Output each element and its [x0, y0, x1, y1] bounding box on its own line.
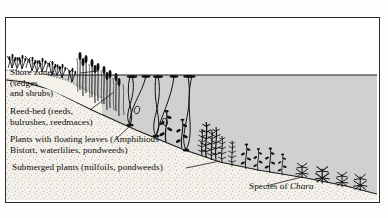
chara-label: Species of Chara	[249, 181, 314, 192]
chara-genus-name: Chara	[290, 181, 314, 191]
diagram-frame: Shore zones (sedges and shrubs) Reed-bed…	[5, 17, 380, 203]
floating-label-line1: Plants with floating leaves (Amphibious	[10, 134, 159, 144]
floating-label-line2: Bistort, waterlilies, pondweeds)	[10, 145, 128, 155]
reed-label-line2: bulrushes, reedmaces)	[10, 117, 93, 127]
chara-label-prefix: Species of	[249, 181, 290, 191]
floating-leaf-label: Plants with floating leaves (Amphibious …	[10, 134, 159, 155]
shore-label-line2: (sedges	[10, 78, 38, 88]
shore-label-line3: and shrubs)	[10, 88, 53, 98]
reed-bed-label: Reed-bed (reeds, bulrushes, reedmaces)	[10, 106, 93, 127]
reed-label-line1: Reed-bed (reeds,	[10, 106, 73, 116]
shore-label-line1: Shore zones	[10, 67, 55, 77]
figure-root: Shore zones (sedges and shrubs) Reed-bed…	[0, 0, 388, 218]
shore-zone-label: Shore zones (sedges and shrubs)	[10, 67, 55, 99]
submerged-label-line1: Submerged plants (milfoils, pondweeds)	[12, 162, 163, 172]
submerged-plant-label: Submerged plants (milfoils, pondweeds)	[12, 162, 163, 173]
